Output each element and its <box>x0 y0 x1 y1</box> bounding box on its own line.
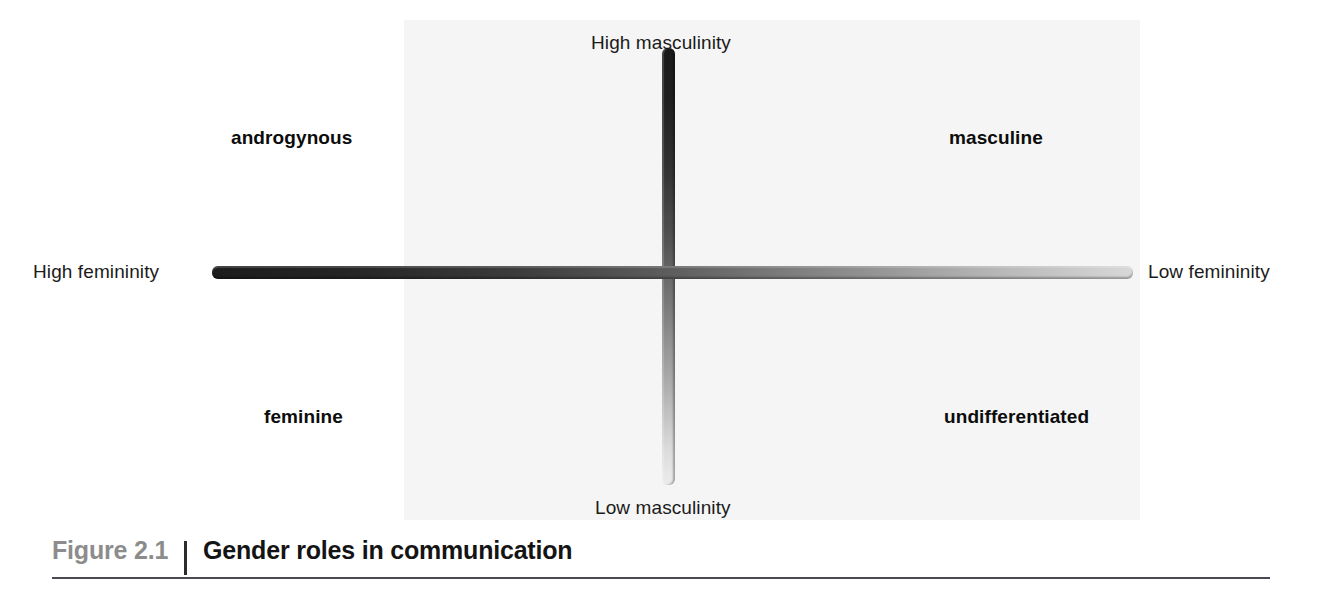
quadrant-label-feminine: feminine <box>264 406 343 428</box>
quadrant-label-androgynous: androgynous <box>231 127 352 149</box>
axis-label-low-femininity: Low femininity <box>1148 261 1270 283</box>
figure-container: High masculinity Low masculinity High fe… <box>0 0 1331 611</box>
figure-caption: Figure 2.1 Gender roles in communication <box>52 536 1270 582</box>
axis-label-high-masculinity: High masculinity <box>591 32 731 54</box>
axis-label-high-femininity: High femininity <box>33 261 159 283</box>
quadrant-label-undifferentiated: undifferentiated <box>944 406 1089 428</box>
axis-label-low-masculinity: Low masculinity <box>595 497 731 519</box>
femininity-axis-bar <box>212 266 1133 279</box>
caption-figure-number: Figure 2.1 <box>52 536 184 565</box>
quadrant-label-masculine: masculine <box>949 127 1043 149</box>
caption-row: Figure 2.1 Gender roles in communication <box>52 536 1270 572</box>
caption-horizontal-rule <box>52 577 1270 579</box>
caption-title: Gender roles in communication <box>187 536 572 565</box>
